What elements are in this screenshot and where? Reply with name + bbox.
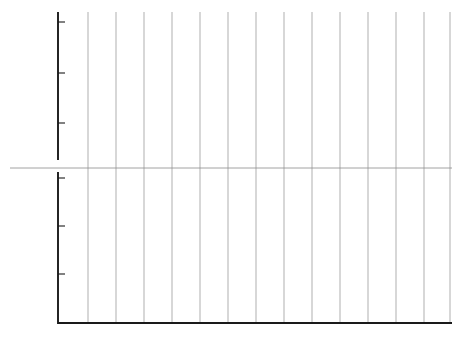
y-ticks-top [58,22,65,123]
gridlines-vertical [88,12,450,323]
y-ticks-bottom [58,178,65,323]
chart-figure [0,0,458,345]
dual-line-chart-svg [0,0,458,345]
